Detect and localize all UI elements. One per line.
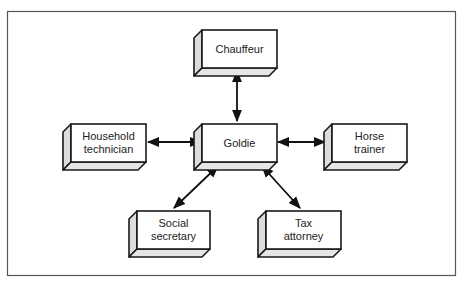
node-chauffeur: Chauffeur (194, 30, 277, 76)
node-tax-attorney: Tax attorney (258, 211, 341, 257)
node-label-line-2: technician (84, 143, 134, 155)
node-label-line-2: trainer (354, 143, 386, 155)
org-diagram: Chauffeur Goldie Household technician Ho… (0, 0, 466, 283)
node-label: Chauffeur (215, 43, 263, 55)
node-label-line-1: Tax (295, 217, 313, 229)
node-label-line-2: secretary (151, 230, 197, 242)
node-label-line-1: Social (159, 217, 189, 229)
node-label-line-1: Horse (355, 130, 384, 142)
node-goldie-hub: Goldie (194, 124, 277, 170)
node-horse-trainer: Horse trainer (324, 124, 407, 170)
node-label: Goldie (224, 137, 256, 149)
node-social-secretary: Social secretary (129, 211, 210, 257)
node-label-line-2: attorney (284, 230, 324, 242)
node-household-technician: Household technician (63, 124, 146, 170)
node-label-line-1: Household (82, 130, 135, 142)
